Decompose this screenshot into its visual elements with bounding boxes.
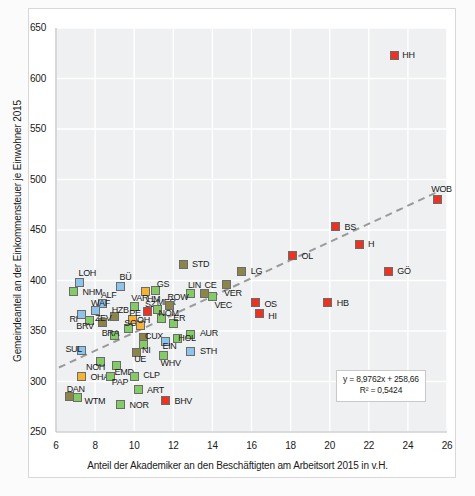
scatter-point[interactable] <box>186 347 195 356</box>
scatter-point-label: ER <box>173 313 185 323</box>
scatter-point-label: VEC <box>214 300 232 310</box>
x-axis-tick-label: 18 <box>279 440 303 451</box>
scatter-point-label: VER <box>224 288 242 298</box>
scatter-point-label: OL <box>302 251 313 261</box>
scatter-point-label: NOR <box>130 400 149 410</box>
scatter-point-label: UE <box>134 354 146 364</box>
scatter-point-label: STD <box>192 259 209 269</box>
scatter-point[interactable] <box>69 287 78 296</box>
scatter-point-label: WOB <box>431 184 452 194</box>
scatter-plot-canvas: 2503003504004505005506006506810121416182… <box>0 0 475 496</box>
scatter-point-label: PAP <box>112 377 128 387</box>
scatter-point[interactable] <box>161 396 170 405</box>
x-axis-tick-label: 24 <box>396 440 420 451</box>
chart-figure: 2503003504004505005506006506810121416182… <box>0 0 475 496</box>
y-axis-title: Gemeindeanteil an der Einkommensteuer je… <box>12 100 23 362</box>
scatter-point-label: HI <box>268 311 276 321</box>
scatter-point-label: BRA <box>102 328 120 338</box>
scatter-point[interactable] <box>130 372 139 381</box>
scatter-point[interactable] <box>116 282 125 291</box>
x-axis-title: Anteil der Akademiker an den Beschäftigt… <box>0 460 475 471</box>
scatter-point-label: H <box>368 239 374 249</box>
scatter-point-label: BS <box>345 222 356 232</box>
scatter-point-label: CLP <box>143 370 160 380</box>
scatter-point-label: LOH <box>78 268 96 278</box>
y-axis-tick-label: 250 <box>12 426 46 437</box>
scatter-point[interactable] <box>134 385 143 394</box>
scatter-point-label: HZB <box>112 305 129 315</box>
scatter-point-label: WAF <box>91 298 110 308</box>
scatter-point-label: OS <box>264 299 276 309</box>
scatter-point-label: ART <box>147 385 164 395</box>
scatter-point-label: CE <box>205 280 217 290</box>
y-axis-tick-label: 600 <box>12 73 46 84</box>
scatter-point[interactable] <box>433 195 442 204</box>
scatter-point-label: EIN <box>162 341 176 351</box>
scatter-point[interactable] <box>73 393 82 402</box>
x-axis-tick-label: 12 <box>161 440 185 451</box>
x-axis-tick-label: 14 <box>200 440 224 451</box>
x-axis-tick-label: 8 <box>83 440 107 451</box>
scatter-point-label: OH <box>137 315 150 325</box>
scatter-point-label: SUL <box>65 344 82 354</box>
scatter-point-label: LG <box>251 266 262 276</box>
scatter-point-label: GS <box>157 279 169 289</box>
scatter-point[interactable] <box>251 298 260 307</box>
scatter-point-label: BRV <box>76 321 93 331</box>
scatter-point[interactable] <box>116 400 125 409</box>
scatter-point-label: DAN <box>67 384 85 394</box>
scatter-point-label: HH <box>402 50 414 60</box>
x-axis-tick-label: 16 <box>240 440 264 451</box>
scatter-point-label: AUR <box>200 328 218 338</box>
scatter-point-label: ROW <box>167 292 188 302</box>
y-axis-tick-label: 300 <box>12 376 46 387</box>
scatter-point-label: BHV <box>174 396 192 406</box>
scatter-point-label: GÖ <box>397 266 410 276</box>
scatter-point[interactable] <box>323 298 332 307</box>
trendline-equation-text: y = 8,9762x + 258,66 <box>343 374 419 385</box>
scatter-point[interactable] <box>390 51 399 60</box>
x-axis-tick-label: 22 <box>357 440 381 451</box>
scatter-point-label: ZEV <box>95 313 112 323</box>
trendline-equation-box: y = 8,9762x + 258,66R² = 0,5424 <box>336 370 426 402</box>
scatter-point[interactable] <box>384 267 393 276</box>
scatter-point-label: STH <box>200 346 217 356</box>
scatter-point[interactable] <box>179 260 188 269</box>
scatter-point-label: HB <box>337 298 349 308</box>
x-axis-tick-label: 6 <box>44 440 68 451</box>
x-axis-tick-label: 26 <box>435 440 459 451</box>
plot-area-svg <box>0 0 475 496</box>
x-axis-tick-label: 20 <box>318 440 342 451</box>
scatter-point-label: HOL <box>178 333 196 343</box>
y-axis-tick-label: 650 <box>12 22 46 33</box>
scatter-point[interactable] <box>77 372 86 381</box>
scatter-point-label: WTM <box>85 396 106 406</box>
scatter-point[interactable] <box>237 267 246 276</box>
scatter-point-label: WHV <box>161 358 181 368</box>
scatter-point-label: LIN <box>188 280 201 290</box>
scatter-point[interactable] <box>355 240 364 249</box>
scatter-point[interactable] <box>288 251 297 260</box>
scatter-point-label: BÜ <box>120 272 132 282</box>
scatter-point-label: NHM <box>83 287 103 297</box>
trendline-r2-text: R² = 0,5424 <box>343 385 419 396</box>
scatter-point[interactable] <box>331 222 340 231</box>
scatter-point[interactable] <box>255 309 264 318</box>
x-axis-tick-label: 10 <box>122 440 146 451</box>
scatter-point-label: NOH <box>86 362 105 372</box>
